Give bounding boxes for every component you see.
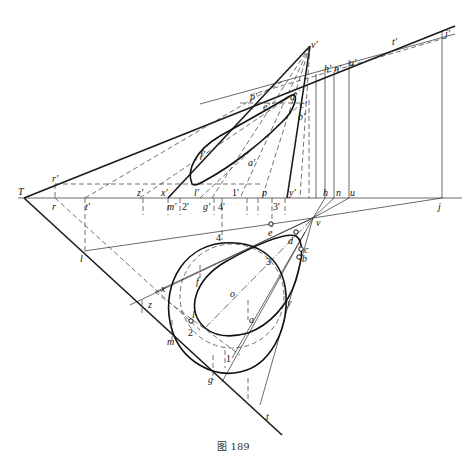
label-y: y (286, 297, 292, 308)
label-l-prime: l' (194, 187, 200, 198)
cone-dash-1 (212, 46, 310, 198)
label-b: b (302, 253, 307, 264)
label-f: f (196, 276, 200, 287)
label-a-prime: a' (248, 157, 256, 168)
label-t: t (266, 411, 269, 422)
point-c (299, 247, 303, 251)
label-j-prime: j' (443, 28, 451, 39)
figure-caption: 图 189 (0, 438, 467, 453)
label-3: 3 (266, 256, 271, 267)
descriptive-geometry-diagram: T r' r t' z' x' m' 2' g' 4' 1' p 3' y' h… (0, 0, 467, 459)
label-e: e (268, 227, 273, 238)
label-x-prime: x' (160, 187, 168, 198)
line-p-j-dash (250, 38, 445, 95)
cone-edge-right (287, 46, 310, 198)
label-e-prime: e' (263, 101, 270, 112)
ray-v-j (313, 198, 442, 218)
label-3-prime: 3' (273, 201, 280, 212)
label-p: p (261, 187, 267, 198)
label-p-prime: p' (249, 91, 258, 102)
label-2-prime: 2' (182, 201, 189, 212)
label-a: a (249, 314, 254, 325)
label-u: u (350, 187, 355, 198)
label-v: v (316, 217, 321, 228)
label-d: d (288, 235, 294, 246)
label-n-prime: n' (334, 63, 342, 74)
diag-r-x (55, 198, 200, 330)
trace-lower (24, 198, 282, 435)
label-l: l (192, 309, 195, 320)
label-T: T (18, 186, 25, 197)
label-u-prime: u' (349, 57, 357, 68)
label-m-prime: m' (167, 201, 177, 212)
label-v-prime: v' (311, 39, 318, 50)
label-2: 2 (188, 327, 193, 338)
label-x: x (160, 283, 166, 294)
label-n: n (336, 187, 341, 198)
point-e (269, 222, 273, 226)
label-t-prime: t' (392, 36, 398, 47)
label-4: 4 (216, 232, 221, 243)
label-l-left: l (80, 253, 83, 264)
label-g: g (208, 374, 213, 385)
label-z-prime: z' (136, 187, 144, 198)
label-d-prime: d' (290, 91, 298, 102)
label-t-prime-axis: t' (85, 201, 91, 212)
label-f-prime: f' (200, 149, 206, 160)
diag-front-2 (140, 90, 300, 198)
cone-edge-left (168, 46, 310, 198)
label-4-prime: 4' (218, 201, 225, 212)
label-b-prime: b' (298, 111, 306, 122)
section-curve-front (190, 95, 295, 185)
label-1: 1 (226, 353, 231, 364)
point-b (297, 255, 301, 259)
cone-dash-2 (240, 46, 310, 198)
cone-dash-3 (262, 46, 310, 198)
label-h: h (323, 187, 328, 198)
cone-dash-4 (300, 46, 310, 198)
label-h-prime: h' (324, 63, 332, 74)
label-m: m (167, 336, 174, 347)
point-d (294, 230, 298, 234)
label-c-prime: c' (300, 99, 307, 110)
label-g-prime: g' (203, 201, 211, 212)
label-y-prime: y' (288, 187, 296, 198)
label-r: r (52, 201, 56, 212)
label-1-prime: 1' (232, 187, 239, 198)
label-o: o (230, 288, 235, 299)
label-r-prime: r' (52, 173, 59, 184)
label-z: z (147, 299, 152, 310)
label-j: j (436, 201, 441, 212)
